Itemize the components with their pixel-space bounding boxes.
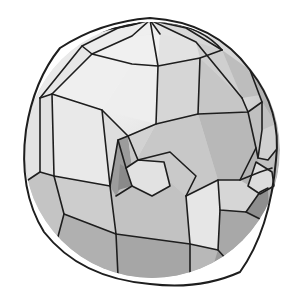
- mesh-face: [156, 58, 200, 124]
- mesh-face: [218, 210, 262, 270]
- mesh-render-canvas: [0, 0, 303, 294]
- head-mesh-model: [0, 0, 303, 294]
